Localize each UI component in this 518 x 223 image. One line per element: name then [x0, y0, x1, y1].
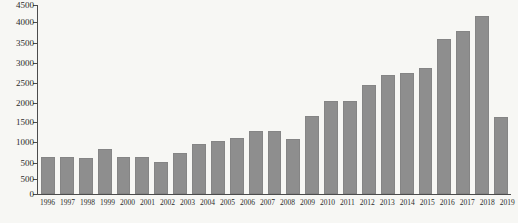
bar-2009 — [286, 139, 300, 194]
x-axis-label: 2014 — [400, 198, 415, 207]
bar-2003 — [173, 153, 187, 194]
x-axis-label: 2008 — [280, 198, 295, 207]
bar-1997 — [60, 157, 74, 194]
plot-area — [37, 5, 511, 195]
x-axis-label: 2001 — [140, 198, 155, 207]
y-tick-label: 3000 — [16, 59, 34, 68]
x-axis-label: 2015 — [420, 198, 435, 207]
bar-2004 — [192, 144, 206, 194]
bar-1999 — [98, 149, 112, 194]
y-tick-label: 4000 — [16, 18, 34, 27]
bar-2014 — [381, 75, 395, 194]
y-tick-label: 2500 — [16, 79, 34, 88]
x-axis-label: 2007 — [260, 198, 275, 207]
bar-2016 — [419, 68, 433, 194]
y-tick-label: 0 — [30, 190, 35, 199]
bar-2020 — [494, 117, 508, 194]
bar-2008 — [268, 131, 282, 194]
bar-2018 — [456, 31, 470, 194]
bar-2006 — [230, 138, 244, 194]
bar-series — [38, 5, 511, 194]
bar-2007 — [249, 131, 263, 194]
x-axis-label: 2003 — [180, 198, 195, 207]
x-axis-label: 2018 — [480, 198, 495, 207]
x-axis-label: 1999 — [100, 198, 115, 207]
bar-1998 — [79, 158, 93, 194]
bar-2015 — [400, 73, 414, 194]
bar-2002 — [154, 162, 168, 194]
y-tick-label: 500 — [21, 175, 35, 184]
x-axis-label: 2005 — [220, 198, 235, 207]
bar-2013 — [362, 85, 376, 194]
x-axis-label: 2010 — [320, 198, 335, 207]
y-tick-label: 1000 — [16, 138, 34, 147]
y-tick-label: 4500 — [16, 1, 34, 10]
bar-chart: 1996199719981999200020012002200320042005… — [0, 0, 518, 223]
x-axis-label: 2009 — [300, 198, 315, 207]
x-axis-label: 1997 — [60, 198, 75, 207]
x-axis-label: 2000 — [120, 198, 135, 207]
x-axis-label: 2016 — [440, 198, 455, 207]
x-axis-label: 2002 — [160, 198, 175, 207]
y-tick-label: 2000 — [16, 99, 34, 108]
x-axis-label: 2011 — [340, 198, 355, 207]
bar-2019 — [475, 16, 489, 194]
x-axis-label: 2017 — [460, 198, 475, 207]
y-tick-label: 1500 — [16, 118, 34, 127]
x-axis-label: 2004 — [200, 198, 215, 207]
x-axis-label: 2012 — [360, 198, 375, 207]
x-axis-labels: 1996199719981999200020012002200320042005… — [37, 198, 510, 207]
y-tick-label: 500 — [21, 159, 35, 168]
bar-2010 — [305, 116, 319, 194]
bar-2012 — [343, 101, 357, 194]
bar-2005 — [211, 141, 225, 194]
bar-2000 — [117, 157, 131, 194]
y-tick-label: 3500 — [16, 39, 34, 48]
bar-2011 — [324, 101, 338, 194]
bar-1996 — [41, 157, 55, 194]
bar-2001 — [135, 157, 149, 194]
x-axis-label: 1996 — [40, 198, 55, 207]
x-axis-label: 2006 — [240, 198, 255, 207]
x-axis-label: 2019 — [500, 198, 515, 207]
x-axis-label: 1998 — [80, 198, 95, 207]
bar-2017 — [437, 39, 451, 194]
x-axis-label: 2013 — [380, 198, 395, 207]
